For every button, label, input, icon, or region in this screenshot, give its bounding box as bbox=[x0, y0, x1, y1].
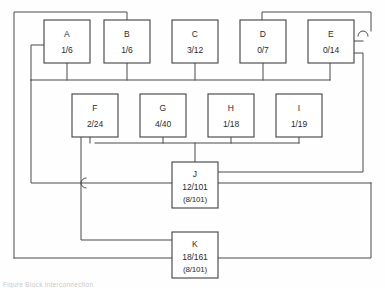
node-k[interactable]: K18/161(8/101) bbox=[172, 232, 218, 278]
node-label-e: E bbox=[328, 29, 334, 39]
node-c[interactable]: C3/12 bbox=[172, 20, 218, 63]
node-h[interactable]: H1/18 bbox=[208, 94, 254, 137]
node-box-b bbox=[104, 20, 150, 63]
node-label-d: D bbox=[260, 29, 266, 39]
node-subvalue-j: (8/101) bbox=[183, 195, 207, 204]
node-value-c: 3/12 bbox=[187, 45, 204, 55]
node-box-g bbox=[140, 94, 186, 137]
node-value-k: 18/161 bbox=[182, 252, 208, 262]
node-value-a: 1/6 bbox=[61, 45, 73, 55]
wire-K-right-out bbox=[218, 183, 371, 258]
node-label-f: F bbox=[92, 103, 97, 113]
node-b[interactable]: B1/6 bbox=[104, 20, 150, 63]
node-value-d: 0/7 bbox=[257, 45, 269, 55]
node-value-i: 1/19 bbox=[291, 119, 308, 129]
node-box-a bbox=[44, 20, 90, 63]
node-a[interactable]: A1/6 bbox=[44, 20, 90, 63]
wire-left-inner-riser bbox=[31, 45, 44, 80]
node-value-e: 0/14 bbox=[323, 45, 340, 55]
node-label-h: H bbox=[228, 103, 234, 113]
node-d[interactable]: D0/7 bbox=[240, 20, 286, 63]
node-value-f: 2/24 bbox=[87, 119, 104, 129]
node-box-h bbox=[208, 94, 254, 137]
node-value-b: 1/6 bbox=[121, 45, 133, 55]
node-value-g: 4/40 bbox=[155, 119, 172, 129]
node-i[interactable]: I1/19 bbox=[276, 94, 322, 137]
node-f[interactable]: F2/24 bbox=[72, 94, 118, 137]
node-box-e bbox=[308, 20, 354, 63]
node-box-d bbox=[240, 20, 286, 63]
node-box-f bbox=[72, 94, 118, 137]
node-label-c: C bbox=[192, 29, 198, 39]
node-j[interactable]: J12/101(8/101) bbox=[172, 162, 218, 208]
wire-F-long-vertical bbox=[81, 137, 172, 240]
node-label-j: J bbox=[193, 169, 197, 179]
node-label-a: A bbox=[64, 29, 70, 39]
node-label-k: K bbox=[192, 239, 198, 249]
node-value-j: 12/101 bbox=[182, 182, 208, 192]
node-box-c bbox=[172, 20, 218, 63]
node-subvalue-k: (8/101) bbox=[183, 265, 207, 274]
node-box-i bbox=[276, 94, 322, 137]
hop-right-rail-icon bbox=[358, 31, 368, 36]
node-label-b: B bbox=[124, 29, 130, 39]
node-value-h: 1/18 bbox=[223, 119, 240, 129]
node-e[interactable]: E0/14 bbox=[308, 20, 354, 63]
figure-caption: Figure Block interconnection bbox=[3, 281, 93, 288]
node-label-i: I bbox=[298, 103, 301, 113]
node-g[interactable]: G4/40 bbox=[140, 94, 186, 137]
node-label-g: G bbox=[160, 103, 167, 113]
